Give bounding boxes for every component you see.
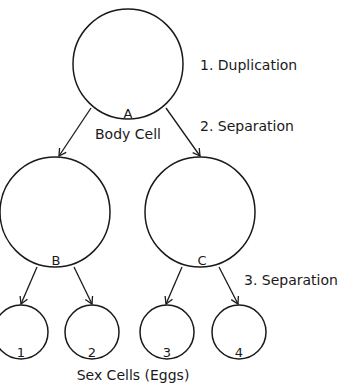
sex-cell-3-label: 3: [163, 345, 171, 360]
cell-b: B: [0, 157, 110, 268]
cell-a-circle: [73, 9, 183, 119]
sex-cell-4: 4: [212, 305, 266, 360]
meiosis-diagram: A Body Cell B C 1 2 3 4 1. Duplication 2…: [0, 0, 354, 387]
sex-cell-1: 1: [0, 305, 48, 360]
step-3-label: 3. Separation: [244, 272, 338, 288]
cell-c-circle: [145, 157, 255, 267]
arrow-c-to-4: [219, 267, 238, 304]
body-cell-a: A Body Cell: [73, 9, 183, 142]
cell-b-circle: [0, 157, 110, 267]
body-cell-caption: Body Cell: [95, 126, 161, 142]
sex-cell-2-label: 2: [88, 345, 96, 360]
sex-cells-caption: Sex Cells (Eggs): [77, 367, 190, 383]
cell-b-letter: B: [52, 253, 61, 268]
step-1-label: 1. Duplication: [200, 57, 297, 73]
arrow-a-to-c: [166, 108, 200, 156]
cell-c-letter: C: [197, 253, 206, 268]
sex-cell-2: 2: [65, 305, 119, 360]
step-2-label: 2. Separation: [200, 118, 294, 134]
cell-a-letter: A: [124, 106, 133, 121]
arrow-c-to-3: [166, 267, 182, 304]
arrow-a-to-b: [59, 108, 91, 156]
cell-c: C: [145, 157, 255, 268]
sex-cell-1-label: 1: [17, 345, 25, 360]
sex-cell-4-label: 4: [235, 345, 243, 360]
sex-cell-3: 3: [140, 305, 194, 360]
arrow-b-to-1: [21, 267, 37, 304]
arrow-b-to-2: [74, 267, 92, 304]
